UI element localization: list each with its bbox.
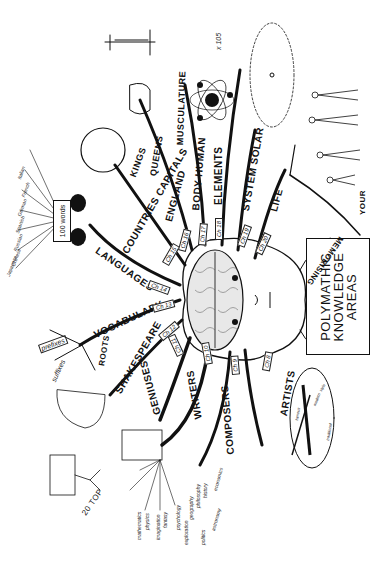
writers-topic: philosophy <box>195 484 201 508</box>
title-line-3: AREAS <box>345 242 358 352</box>
writers-topic: physics <box>144 513 150 530</box>
writers-topic: history <box>202 483 208 498</box>
words-100-box: 100 words <box>53 200 71 242</box>
writers-topic: exploration <box>183 521 189 545</box>
branch-elements: ELEMENTS <box>213 147 224 205</box>
writers-topic: mathematics <box>136 512 142 540</box>
chapter-tag-9: Ch 9 <box>230 356 240 375</box>
writers-topic: politics <box>200 530 206 545</box>
writers-topic: psychology <box>175 505 181 530</box>
chapter-tag-18: Ch 18 <box>215 218 223 240</box>
title-box: POLYMATHIC KNOWLEDGE AREAS <box>306 238 370 355</box>
writers-topic: geography <box>188 496 194 520</box>
mind-map-canvas: POLYMATHIC KNOWLEDGE AREAS ARTISTS Ch 8 … <box>0 0 383 561</box>
writers-topic: fantasy <box>162 512 168 528</box>
label-x105: x 105 <box>215 33 222 50</box>
writers-topic: imagination <box>155 514 161 540</box>
label-your: YOUR <box>358 190 367 215</box>
